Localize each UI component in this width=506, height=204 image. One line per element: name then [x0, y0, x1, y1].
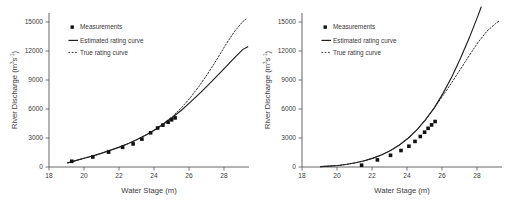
measurement-point: [376, 158, 380, 162]
y-tick-15000: 15000: [25, 18, 44, 25]
y-tick-6000: 6000: [281, 105, 296, 112]
y-tick-3000: 3000: [281, 134, 296, 141]
measurement-point: [399, 149, 403, 153]
panel-left-estimated-curve: [68, 47, 248, 163]
measurement-point: [107, 150, 111, 154]
y-tick-0: 0: [292, 163, 296, 170]
y-tick-12000: 12000: [278, 47, 297, 54]
svg-text:River Discharge (m3s-1): River Discharge (m3s-1): [10, 51, 19, 129]
measurement-point: [173, 116, 177, 120]
measurement-point: [149, 131, 153, 135]
measurement-point: [419, 135, 423, 139]
y-tick-9000: 9000: [28, 76, 43, 83]
svg-text:River Discharge (m3s-1): River Discharge (m3s-1): [263, 51, 272, 129]
panel-right-y-ticks: [299, 22, 303, 167]
x-tick-20: 20: [333, 172, 341, 179]
x-tick-22: 22: [115, 172, 123, 179]
x-tick-24: 24: [403, 172, 411, 179]
measurement-point: [121, 146, 125, 150]
legend-label-measurements: Measurements: [333, 23, 375, 30]
panel-left-plot: 0 3000 6000 9000 12000 15000 18 20 22 24…: [0, 0, 253, 204]
panel-left-y-tick-labels: 0 3000 6000 9000 12000 15000: [25, 18, 44, 170]
y-title-main: River Discharge (m: [263, 64, 272, 129]
y-tick-15000: 15000: [278, 18, 297, 25]
panel-left-x-ticks: [49, 167, 224, 171]
panel-right-plot: 0 3000 6000 9000 12000 15000 18 20 22 24…: [253, 0, 506, 204]
y-title-main: River Discharge (m: [10, 64, 19, 129]
panel-right-y-tick-labels: 0 3000 6000 9000 12000 15000: [278, 18, 297, 170]
y-tick-6000: 6000: [28, 105, 43, 112]
measurement-point: [156, 126, 160, 130]
y-tick-3000: 3000: [28, 134, 43, 141]
measurement-point: [423, 130, 427, 134]
panel-left-x-axis-title: Water Stage (m): [121, 186, 177, 195]
x-tick-18: 18: [45, 172, 53, 179]
x-tick-24: 24: [150, 172, 158, 179]
x-tick-22: 22: [368, 172, 376, 179]
panel-left-legend: Measurements Estimated rating curve True…: [69, 23, 145, 56]
x-tick-26: 26: [438, 172, 446, 179]
panel-right-axes: [302, 13, 502, 167]
measurement-point: [430, 123, 434, 127]
y-tick-0: 0: [39, 163, 43, 170]
legend-label-estimated: Estimated rating curve: [80, 37, 144, 45]
panel-right-y-axis-title: River Discharge (m3s-1): [263, 51, 272, 129]
measurement-point: [166, 120, 170, 124]
panel-right-x-ticks: [302, 167, 477, 171]
panel-left-axes: [49, 13, 249, 167]
panel-right-x-tick-labels: 18 20 22 24 26 28: [298, 172, 481, 179]
x-tick-20: 20: [80, 172, 88, 179]
panel-left-y-axis-title: River Discharge (m3s-1): [10, 51, 19, 129]
legend-label-estimated: Estimated rating curve: [333, 37, 397, 45]
x-tick-18: 18: [298, 172, 306, 179]
panel-left-x-tick-labels: 18 20 22 24 26 28: [45, 172, 228, 179]
legend-square-marker-icon: [324, 25, 327, 28]
panel-right-estimated-curve: [321, 7, 482, 167]
y-title-close: ): [10, 51, 19, 54]
panel-right-x-axis-title: Water Stage (m): [374, 186, 430, 195]
measurement-point: [131, 142, 135, 146]
measurement-point: [389, 154, 393, 158]
panel-left-measurement-markers: [70, 116, 177, 163]
measurement-point: [170, 118, 174, 122]
legend-label-true: True rating curve: [333, 49, 382, 57]
panel-right: 0 3000 6000 9000 12000 15000 18 20 22 24…: [253, 0, 506, 204]
rating-curve-figure: 0 3000 6000 9000 12000 15000 18 20 22 24…: [0, 0, 506, 204]
y-title-close: ): [263, 51, 272, 54]
measurement-point: [161, 123, 165, 127]
measurement-point: [91, 155, 95, 159]
panel-right-legend: Measurements Estimated rating curve True…: [322, 23, 398, 56]
panel-left: 0 3000 6000 9000 12000 15000 18 20 22 24…: [0, 0, 253, 204]
legend-label-measurements: Measurements: [80, 23, 122, 30]
x-tick-28: 28: [220, 172, 228, 179]
measurement-point: [413, 140, 417, 144]
measurement-point: [140, 137, 144, 141]
x-tick-26: 26: [185, 172, 193, 179]
measurement-point: [433, 120, 437, 124]
y-tick-9000: 9000: [281, 76, 296, 83]
panel-left-y-ticks: [46, 22, 50, 167]
measurement-point: [407, 144, 411, 148]
panel-right-measurement-markers: [360, 120, 437, 167]
measurement-point: [360, 163, 364, 167]
x-tick-28: 28: [473, 172, 481, 179]
measurement-point: [426, 127, 430, 131]
legend-label-true: True rating curve: [80, 49, 129, 57]
legend-square-marker-icon: [71, 25, 74, 28]
measurement-point: [70, 160, 74, 164]
y-tick-12000: 12000: [25, 47, 44, 54]
